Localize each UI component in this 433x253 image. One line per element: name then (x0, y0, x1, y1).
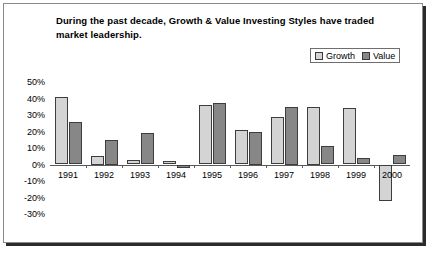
bar-value-1996 (249, 132, 262, 165)
y-axis-tick-label: 30% (11, 110, 45, 120)
plot-area: 50%40%30%20%10%0%-10%-20%-30% 1991199219… (50, 82, 410, 214)
bar-group (163, 82, 190, 214)
bar-value-1993 (141, 133, 154, 164)
bar-group (199, 82, 226, 214)
bar-value-1991 (69, 122, 82, 165)
y-axis-tick-label: 0% (11, 160, 45, 170)
bar-group (91, 82, 118, 214)
legend-label-value: Value (373, 51, 395, 61)
y-axis-tick-label: 20% (11, 127, 45, 137)
x-axis-tick (194, 165, 195, 168)
bar-value-1995 (213, 103, 226, 164)
y-axis-tick-label: -20% (11, 193, 45, 203)
x-axis-label-1992: 1992 (94, 170, 114, 180)
x-axis-label-1997: 1997 (274, 170, 294, 180)
bar-growth-1994 (163, 161, 176, 164)
x-axis-label-1995: 1995 (202, 170, 222, 180)
y-axis-tick-label: -30% (11, 209, 45, 219)
bar-value-1992 (105, 140, 118, 165)
x-axis-label-1993: 1993 (130, 170, 150, 180)
bar-growth-1998 (307, 107, 320, 165)
legend-entry-value: Value (362, 51, 395, 61)
chart-frame: During the past decade, Growth & Value I… (3, 3, 423, 243)
x-axis-label-1994: 1994 (166, 170, 186, 180)
x-axis-label-1998: 1998 (310, 170, 330, 180)
bar-growth-1993 (127, 160, 140, 165)
x-axis-tick (86, 165, 87, 168)
legend-entry-growth: Growth (315, 51, 355, 61)
bar-growth-1997 (271, 117, 284, 165)
legend-swatch-value (362, 52, 370, 60)
x-axis-tick (302, 165, 303, 168)
bar-value-2000 (393, 155, 406, 165)
bar-group (379, 82, 406, 214)
x-axis-tick (230, 165, 231, 168)
x-axis-tick (374, 165, 375, 168)
legend-swatch-growth (315, 52, 323, 60)
bar-value-1994 (177, 165, 190, 168)
x-axis-tick (122, 165, 123, 168)
bar-group (127, 82, 154, 214)
bar-growth-1996 (235, 130, 248, 165)
bar-group (55, 82, 82, 214)
chart-legend: Growth Value (310, 48, 400, 63)
x-axis-label-1996: 1996 (238, 170, 258, 180)
x-axis-tick (158, 165, 159, 168)
bar-group (235, 82, 262, 214)
bar-group (271, 82, 298, 214)
y-axis-tick-label: 10% (11, 143, 45, 153)
chart-title: During the past decade, Growth & Value I… (56, 14, 386, 42)
bar-value-1997 (285, 107, 298, 165)
bar-growth-1999 (343, 108, 356, 164)
bar-group (343, 82, 370, 214)
x-axis-label-2000: 2000 (382, 170, 402, 180)
bar-growth-1991 (55, 97, 68, 165)
legend-label-growth: Growth (326, 51, 355, 61)
bar-growth-1995 (199, 105, 212, 164)
y-axis-tick-label: -10% (11, 176, 45, 186)
bar-group (307, 82, 334, 214)
x-axis-tick (266, 165, 267, 168)
bar-value-1998 (321, 146, 334, 164)
bar-growth-1992 (91, 156, 104, 164)
y-axis-tick-label: 40% (11, 94, 45, 104)
y-axis-tick-label: 50% (11, 77, 45, 87)
x-axis-label-1999: 1999 (346, 170, 366, 180)
x-axis-label-1991: 1991 (58, 170, 78, 180)
x-axis-tick (338, 165, 339, 168)
bar-value-1999 (357, 158, 370, 165)
